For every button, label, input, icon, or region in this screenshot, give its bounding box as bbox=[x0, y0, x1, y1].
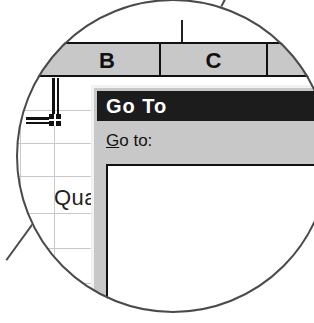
grid-line-v bbox=[20, 77, 21, 313]
fill-handle[interactable] bbox=[49, 114, 61, 126]
dialog-title-bar[interactable]: Go To bbox=[97, 91, 314, 121]
go-to-field-label: Go to: bbox=[106, 131, 152, 151]
magnifier-circle: B C Qua bbox=[16, 0, 314, 313]
column-header-d[interactable] bbox=[268, 44, 314, 77]
figure-canvas: B C Qua bbox=[0, 0, 314, 323]
column-header-c[interactable]: C bbox=[161, 44, 268, 77]
cell-selection-border-vertical-inner bbox=[57, 78, 59, 118]
column-header-c-label: C bbox=[206, 48, 222, 74]
go-to-dialog: Go To Go to: bbox=[91, 85, 314, 313]
column-header-bottom-rule bbox=[16, 75, 314, 77]
column-header-b-label: B bbox=[99, 48, 115, 74]
go-to-listbox[interactable] bbox=[106, 164, 314, 313]
dialog-title: Go To bbox=[97, 95, 167, 118]
go-to-label-accelerator: G bbox=[106, 131, 119, 150]
column-header-b[interactable]: B bbox=[55, 44, 161, 77]
toolbar-divider bbox=[181, 20, 183, 44]
go-to-label-rest: o to: bbox=[119, 131, 152, 150]
spreadsheet-toolbar-strip bbox=[16, 20, 314, 44]
